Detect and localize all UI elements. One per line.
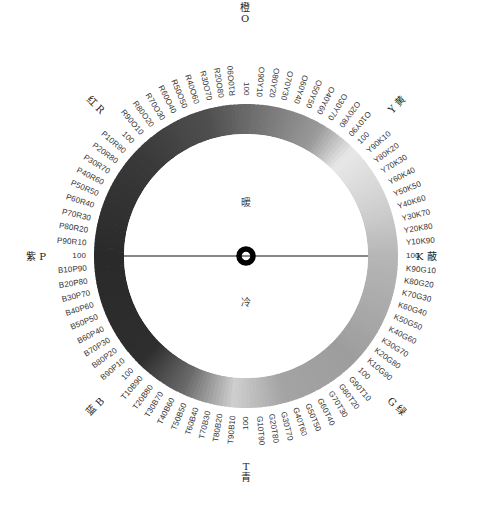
scale-label: 100 <box>242 82 250 96</box>
scale-label: O90Y10 <box>255 66 265 97</box>
hue-label-t: T青 <box>241 461 251 483</box>
hue-label-p: 紫 P <box>26 251 46 262</box>
hue-label-k: K 蔽 <box>416 251 437 262</box>
scale-label: 100 <box>242 416 250 430</box>
cool-label: 冷 <box>241 294 251 309</box>
scale-label: 100 <box>72 252 86 260</box>
scale-label: K90G10 <box>405 265 436 275</box>
warm-label: 暖 <box>241 194 251 209</box>
scale-label: G10T90 <box>255 415 265 445</box>
hue-label-o: 橙O <box>240 2 250 24</box>
